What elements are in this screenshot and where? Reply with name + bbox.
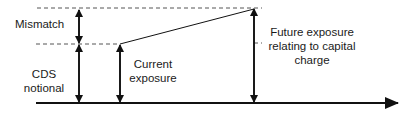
future-exposure-label-line1: Future exposure: [264, 25, 360, 39]
current-exposure-label-line2: exposure: [126, 71, 180, 85]
cds-notional-label: CDS notional: [20, 67, 68, 95]
cds-notional-label-line2: notional: [20, 81, 68, 95]
current-exposure-label-line1: Current: [126, 57, 180, 71]
mismatch-label: Mismatch: [15, 17, 64, 31]
current-exposure-label: Current exposure: [126, 57, 180, 85]
future-exposure-label: Future exposure relating to capital char…: [264, 25, 360, 67]
future-exposure-label-line2: relating to capital: [264, 39, 360, 53]
cds-notional-label-line1: CDS: [20, 67, 68, 81]
exposure-slope-line: [120, 9, 254, 44]
future-exposure-label-line3: charge: [264, 53, 360, 67]
